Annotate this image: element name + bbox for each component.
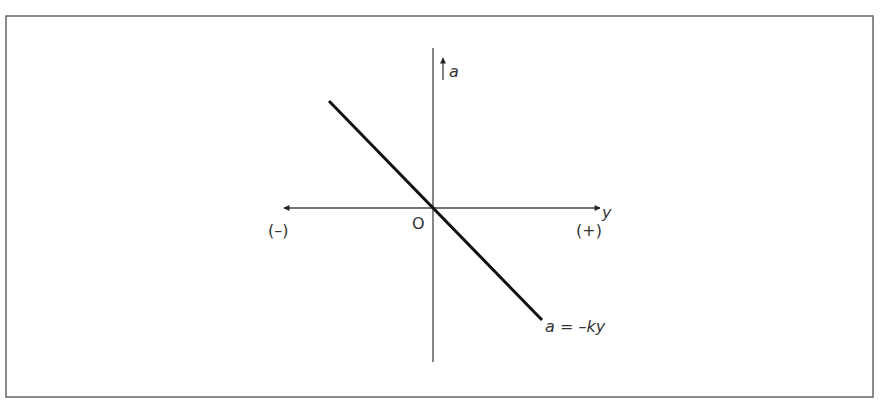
origin-label: O — [412, 214, 425, 233]
positive-label: (+) — [576, 221, 602, 240]
acceleration-line — [329, 101, 542, 320]
diagram: a y O (–) (+) a = –ky — [0, 0, 880, 405]
line-equation-label: a = –ky — [545, 317, 606, 336]
frame-border — [6, 16, 873, 397]
a-axis-label: a — [449, 62, 459, 81]
negative-label: (–) — [268, 221, 288, 240]
y-axis-label: y — [601, 203, 612, 222]
